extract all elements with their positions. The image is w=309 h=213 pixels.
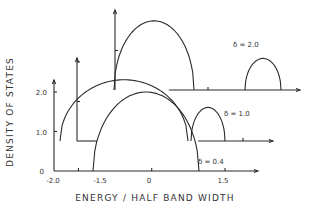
annotation-delta-2: δ = 2.0 — [233, 41, 259, 49]
x-tick-label: 1.5 — [217, 177, 228, 185]
y-axis-title: DENSITY OF STATES — [5, 57, 15, 167]
band-curve — [245, 58, 281, 90]
x-axis-title: ENERGY / HALF BAND WIDTH — [75, 193, 235, 203]
y-tick-label: 1.0 — [36, 129, 47, 137]
density-of-states-chart: DENSITY OF STATES ENERGY / HALF BAND WID… — [0, 0, 309, 213]
annotation-delta-04: δ = 0.4 — [198, 158, 224, 166]
x-tick-label: 0 — [147, 177, 151, 185]
band-curve — [191, 107, 225, 141]
x-tick-label: -2.0 — [46, 177, 60, 185]
band-curve — [60, 80, 188, 141]
annotation-delta-1: δ = 1.0 — [224, 110, 250, 118]
x-tick-label: -1.5 — [93, 177, 107, 185]
y-tick-label: 2.0 — [36, 89, 47, 97]
band-curve — [93, 92, 199, 171]
y-tick-label: 0 — [40, 168, 44, 176]
